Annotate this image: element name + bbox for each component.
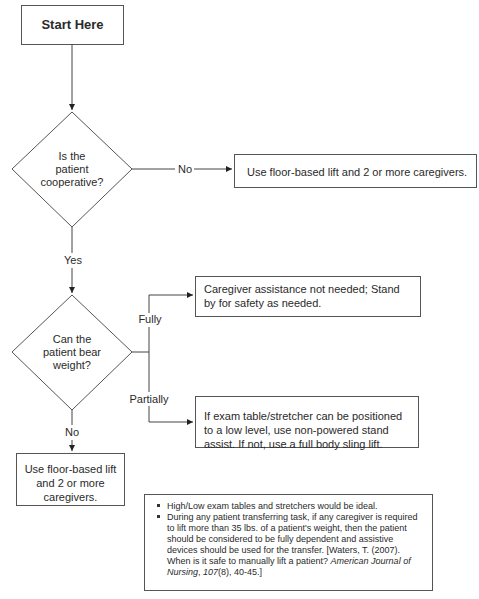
partially-label: Partially xyxy=(128,393,170,406)
no-label-1: No xyxy=(176,163,194,176)
note-item: During any patient transferring task, if… xyxy=(167,512,426,578)
start-label: Start Here xyxy=(41,18,103,32)
outcome-partially-box: If exam table/stretcher can be positione… xyxy=(195,396,419,448)
outcome-no-weight-box: Use floor-based lift and 2 or more careg… xyxy=(16,453,125,506)
note-item: High/Low exam tables and stretchers woul… xyxy=(167,501,426,512)
no-label-2: No xyxy=(62,426,82,439)
outcome-fully-box: Caregiver assistance not needed; Stand b… xyxy=(195,276,421,317)
outcome-not-cooperative-box: Use floor-based lift and 2 or more careg… xyxy=(234,154,477,188)
decision1-text: Is the patient cooperative? xyxy=(32,150,112,189)
notes-box: High/Low exam tables and stretchers woul… xyxy=(144,494,433,591)
yes-label: Yes xyxy=(61,254,85,267)
fully-label: Fully xyxy=(136,313,164,326)
start-box: Start Here xyxy=(21,5,124,45)
decision2-text: Can the patient bear weight? xyxy=(27,333,117,372)
